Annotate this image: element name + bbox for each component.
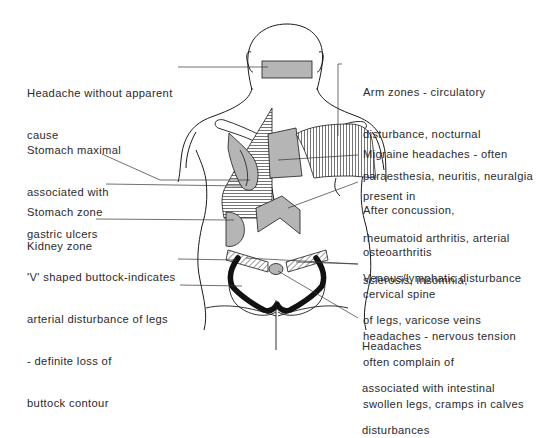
label-line: Headaches bbox=[362, 339, 495, 353]
label-line: After concussion, bbox=[363, 203, 516, 217]
label-line: Arm zones - circulatory bbox=[363, 85, 533, 99]
label-line: disturbances bbox=[362, 423, 495, 437]
label-line: Headache without apparent bbox=[27, 86, 173, 100]
label-line: 'V' shaped buttock-indicates bbox=[27, 270, 175, 284]
label-line: associated with intestinal bbox=[362, 381, 495, 395]
label-v-shaped-buttock: 'V' shaped buttock-indicates arterial di… bbox=[27, 242, 175, 438]
label-line: buttock contour bbox=[27, 396, 175, 410]
label-line: Stomach maximal bbox=[27, 143, 121, 157]
headache-zone-shape bbox=[262, 61, 312, 78]
label-line: Venous/lymphatic disturbance bbox=[363, 271, 524, 285]
label-line: arterial disturbance of legs bbox=[27, 312, 175, 326]
label-line: Migraine headaches - often bbox=[363, 147, 510, 161]
label-line: - definite loss of bbox=[27, 354, 175, 368]
label-intestinal-headaches: Headaches associated with intestinal dis… bbox=[362, 311, 495, 438]
